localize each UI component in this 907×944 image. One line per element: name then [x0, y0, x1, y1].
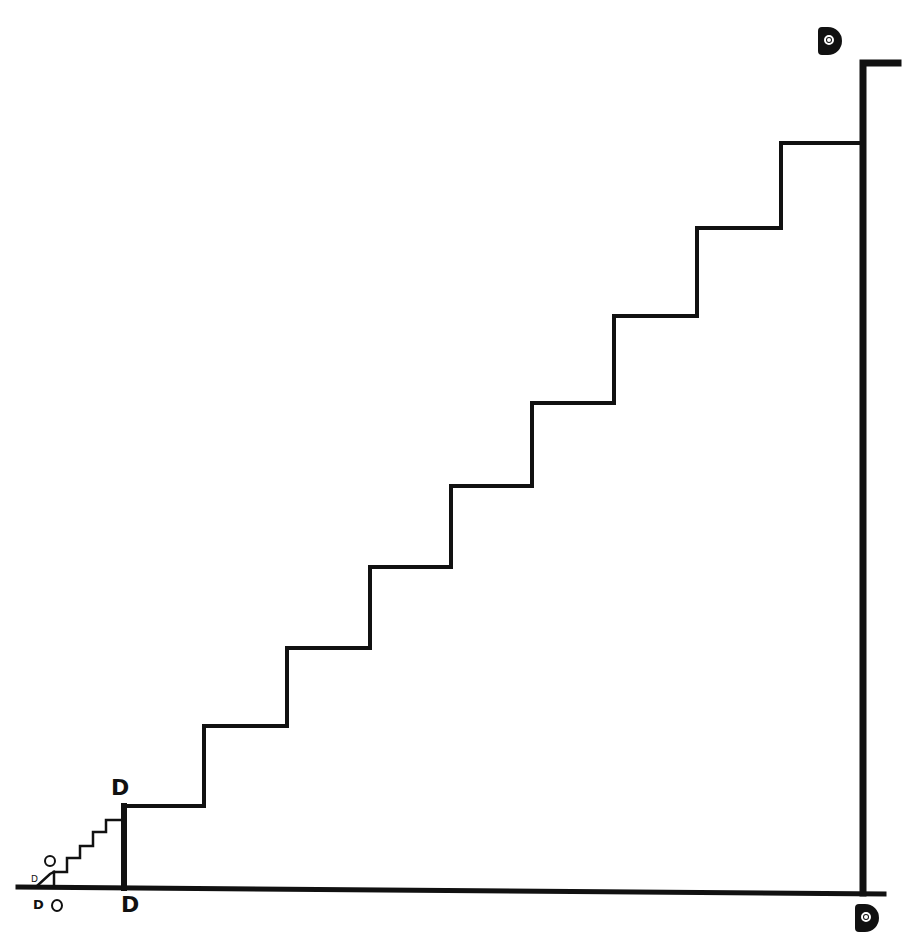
baseline	[18, 887, 884, 894]
label-bottom-left-d: D	[33, 898, 44, 911]
small-staircase-ramp	[37, 872, 54, 886]
eye-pupil	[864, 915, 868, 919]
small-staircase	[54, 820, 122, 872]
bottom-left-o	[51, 899, 63, 912]
label-small-stair-tiny-d: D	[31, 875, 38, 884]
label-large-stair-base: D	[121, 894, 139, 916]
label-large-stair-top: D	[111, 777, 129, 799]
small-stair-figure-o	[44, 855, 56, 867]
tall-wall	[863, 63, 898, 893]
eye-pupil	[827, 38, 831, 42]
large-staircase	[124, 143, 863, 888]
staircase-diagram	[0, 0, 907, 944]
